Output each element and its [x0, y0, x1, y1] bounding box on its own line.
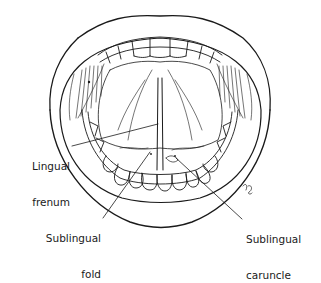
- leader-sublingual-caruncle: [176, 158, 242, 219]
- label-sublingual-caruncle: Sublingual caruncle: [246, 209, 318, 283]
- duct-dot: [88, 81, 90, 83]
- label-line: caruncle: [246, 269, 318, 281]
- label-line: Sublingual: [32, 232, 101, 244]
- sublingual-veins: [118, 70, 202, 140]
- lower-teeth: [82, 110, 238, 191]
- label-sublingual-fold: Sublingual fold: [32, 208, 101, 283]
- upper-teeth: [98, 37, 222, 63]
- label-line: fold: [32, 268, 101, 280]
- label-line: frenum: [20, 196, 70, 208]
- label-line: Lingual: [20, 160, 70, 172]
- tongue-underside: [98, 61, 222, 149]
- artist-signature: [243, 184, 252, 194]
- caruncle-shape: [166, 156, 178, 162]
- left-cheek-hatching: [69, 64, 104, 120]
- upper-lip-outline: [78, 16, 270, 110]
- label-line: Sublingual: [246, 233, 318, 245]
